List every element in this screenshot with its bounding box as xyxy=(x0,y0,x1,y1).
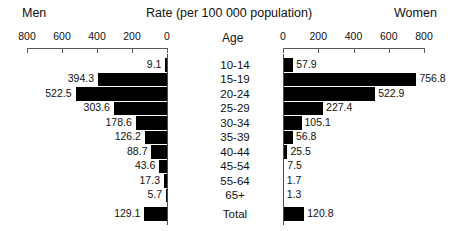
age-group-label: 65+ xyxy=(200,188,270,203)
right-axis-tick xyxy=(283,48,284,53)
left-axis-tick xyxy=(27,48,28,53)
population-pyramid-chart: Men Rate (per 100 000 population) Women … xyxy=(0,0,465,231)
chart-row: 394.315-19756.8 xyxy=(0,72,465,87)
chart-row: 88.740-4425.5 xyxy=(0,145,465,160)
age-group-label: 15-19 xyxy=(200,72,270,87)
men-value-label: 394.3 xyxy=(54,72,94,86)
women-bar xyxy=(283,87,375,101)
chart-row: 17.355-641.7 xyxy=(0,174,465,189)
women-bar xyxy=(283,116,302,130)
men-bar xyxy=(145,131,167,145)
right-axis-tick-label: 600 xyxy=(380,30,398,42)
right-axis-tick-label: 400 xyxy=(345,30,363,42)
chart-row: 522.520-24522.9 xyxy=(0,87,465,102)
right-axis-tick xyxy=(318,48,319,53)
age-group-label: Total xyxy=(200,207,270,222)
chart-row: 5.765+1.3 xyxy=(0,188,465,203)
right-axis-tick xyxy=(389,48,390,53)
men-bar xyxy=(151,145,167,159)
right-zero-baseline xyxy=(283,54,284,226)
men-value-label: 43.6 xyxy=(115,159,155,173)
women-value-label: 56.8 xyxy=(296,130,316,144)
chart-title: Rate (per 100 000 population) xyxy=(146,6,312,20)
women-value-label: 120.8 xyxy=(307,207,333,221)
age-column-header: Age xyxy=(222,31,243,45)
age-group-label: 25-29 xyxy=(200,101,270,116)
women-bar xyxy=(283,102,323,116)
age-group-label: 10-14 xyxy=(200,58,270,73)
right-axis-tick xyxy=(354,48,355,53)
men-value-label: 126.2 xyxy=(101,130,141,144)
right-axis-tick-label: 800 xyxy=(415,30,433,42)
men-bar xyxy=(76,87,167,101)
age-group-label: 20-24 xyxy=(200,87,270,102)
right-axis-tick xyxy=(424,48,425,53)
women-value-label: 227.4 xyxy=(326,101,352,115)
chart-row: 178.630-34105.1 xyxy=(0,116,465,131)
left-axis-tick xyxy=(132,48,133,53)
women-bar xyxy=(283,207,304,221)
chart-row: 126.235-3956.8 xyxy=(0,130,465,145)
right-axis-tick-label: 0 xyxy=(280,30,286,42)
men-value-label: 129.1 xyxy=(100,207,140,221)
women-value-label: 105.1 xyxy=(305,116,331,130)
men-value-label: 5.7 xyxy=(122,188,162,202)
chart-row: 303.625-29227.4 xyxy=(0,101,465,116)
right-axis-tick-label: 200 xyxy=(309,30,327,42)
women-value-label: 57.9 xyxy=(296,58,316,72)
men-bar xyxy=(136,116,167,130)
left-axis-tick-label: 400 xyxy=(88,30,106,42)
age-group-label: 30-34 xyxy=(200,116,270,131)
left-axis-tick xyxy=(167,48,168,53)
women-bar xyxy=(283,73,416,87)
men-bar xyxy=(98,73,167,87)
men-bar xyxy=(144,207,167,221)
age-group-label: 55-64 xyxy=(200,174,270,189)
men-value-label: 178.6 xyxy=(92,116,132,130)
women-value-label: 7.5 xyxy=(287,159,302,173)
women-bar xyxy=(283,58,293,72)
men-value-label: 9.1 xyxy=(121,58,161,72)
women-value-label: 1.3 xyxy=(287,188,302,202)
left-axis-tick xyxy=(62,48,63,53)
women-value-label: 25.5 xyxy=(290,145,310,159)
men-value-label: 88.7 xyxy=(107,145,147,159)
men-bar xyxy=(159,160,167,174)
women-value-label: 756.8 xyxy=(419,72,445,86)
left-axis-tick-label: 200 xyxy=(123,30,141,42)
women-bar xyxy=(283,131,293,145)
men-value-label: 522.5 xyxy=(32,87,72,101)
men-value-label: 17.3 xyxy=(120,174,160,188)
women-value-label: 1.7 xyxy=(287,174,302,188)
left-axis-tick-label: 800 xyxy=(18,30,36,42)
women-value-label: 522.9 xyxy=(378,87,404,101)
left-axis-tick-label: 0 xyxy=(164,30,170,42)
age-group-label: 45-54 xyxy=(200,159,270,174)
men-group-label: Men xyxy=(22,6,46,20)
age-group-label: 40-44 xyxy=(200,145,270,160)
age-group-label: 35-39 xyxy=(200,130,270,145)
left-axis-tick-label: 600 xyxy=(53,30,71,42)
left-axis-tick xyxy=(97,48,98,53)
chart-row: 9.110-1457.9 xyxy=(0,58,465,73)
women-group-label: Women xyxy=(394,6,437,20)
chart-row: 129.1Total120.8 xyxy=(0,207,465,222)
men-bar xyxy=(114,102,167,116)
men-value-label: 303.6 xyxy=(70,101,110,115)
left-zero-baseline xyxy=(167,54,168,226)
chart-row: 43.645-547.5 xyxy=(0,159,465,174)
